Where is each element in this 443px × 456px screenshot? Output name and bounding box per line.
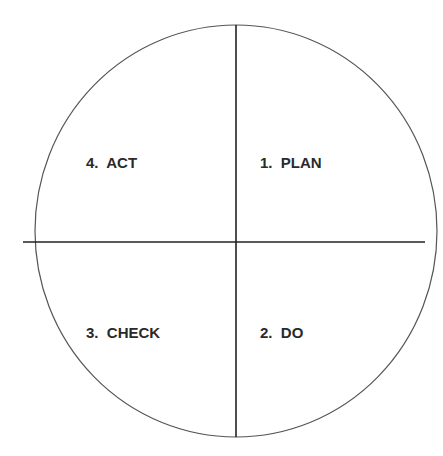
pdca-circle	[0, 0, 443, 456]
quadrant-label-act: 4. ACT	[86, 154, 137, 172]
quadrant-label-check: 3. CHECK	[86, 324, 160, 342]
quadrant-label-plan: 1. PLAN	[260, 154, 322, 172]
quadrant-label-do: 2. DO	[260, 324, 303, 342]
